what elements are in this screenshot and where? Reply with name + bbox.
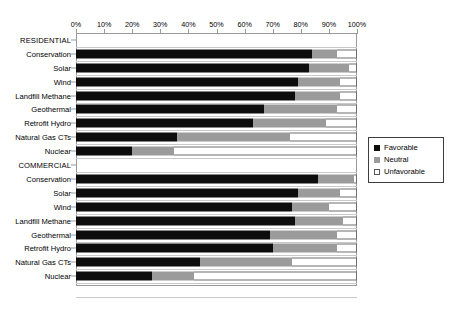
bar-segment-fav bbox=[76, 174, 318, 183]
legend-label-neutral: Neutral bbox=[384, 154, 408, 166]
bar-segment-neu bbox=[177, 133, 289, 142]
category-label: Retrofit Hydro bbox=[24, 244, 71, 253]
legend-label-unfavorable: Unfavorable bbox=[384, 166, 425, 178]
bar-segment-neu bbox=[318, 174, 355, 183]
chart-row: Nuclear bbox=[0, 269, 452, 283]
stacked-bar bbox=[76, 49, 357, 58]
bar-segment-unfav bbox=[340, 91, 357, 100]
bar-segment-unfav bbox=[290, 133, 357, 142]
chart-row: Retrofit Hydro bbox=[0, 242, 452, 256]
bar-segment-neu bbox=[264, 105, 337, 114]
bar-segment-neu bbox=[200, 258, 293, 267]
category-label: Geothermal bbox=[31, 105, 71, 114]
bar-segment-unfav bbox=[337, 230, 357, 239]
bar-segment-unfav bbox=[354, 174, 357, 183]
category-label: Retrofit Hydro bbox=[24, 119, 71, 128]
stacked-bar bbox=[76, 272, 357, 281]
category-label: Natural Gas CTs bbox=[15, 133, 71, 142]
bar-segment-unfav bbox=[174, 147, 357, 156]
bar-segment-unfav bbox=[337, 49, 357, 58]
stacked-bar bbox=[76, 91, 357, 100]
chart-legend: Favorable Neutral Unfavorable bbox=[368, 137, 444, 183]
chart-row: Landfill Methane bbox=[0, 89, 452, 103]
bar-segment-fav bbox=[76, 216, 295, 225]
bar-segment-unfav bbox=[343, 216, 357, 225]
category-label: Nuclear bbox=[45, 147, 71, 156]
bar-segment-unfav bbox=[194, 272, 357, 281]
bar-segment-neu bbox=[132, 147, 174, 156]
category-label: Solar bbox=[53, 188, 71, 197]
bar-segment-fav bbox=[76, 230, 270, 239]
stacked-bar bbox=[76, 133, 357, 142]
chart-row: Solar bbox=[0, 186, 452, 200]
category-label: Solar bbox=[53, 63, 71, 72]
category-label: Nuclear bbox=[45, 272, 71, 281]
bar-segment-neu bbox=[295, 91, 340, 100]
chart-row: Landfill Methane bbox=[0, 214, 452, 228]
chart-row bbox=[0, 283, 452, 297]
stacked-bar bbox=[76, 119, 357, 128]
chart-row: Retrofit Hydro bbox=[0, 116, 452, 130]
chart-row: Geothermal bbox=[0, 228, 452, 242]
bar-segment-unfav bbox=[292, 258, 357, 267]
category-label: Conservation bbox=[26, 174, 71, 183]
legend-item-unfavorable: Unfavorable bbox=[374, 166, 438, 178]
category-label: Landfill Methane bbox=[15, 216, 71, 225]
y-axis-tick-mark bbox=[71, 39, 76, 40]
category-label: Wind bbox=[54, 77, 71, 86]
bar-segment-unfav bbox=[337, 244, 357, 253]
stacked-bar bbox=[76, 147, 357, 156]
bar-segment-fav bbox=[76, 91, 295, 100]
stacked-bar bbox=[76, 244, 357, 253]
group-label: COMMERCIAL bbox=[19, 161, 71, 170]
chart-row: Conservation bbox=[0, 47, 452, 61]
stacked-bar-chart: 0%10%20%30%40%50%60%70%80%90%100% RESIDE… bbox=[0, 0, 452, 318]
chart-row: Natural Gas CTs bbox=[0, 255, 452, 269]
group-header-row: RESIDENTIAL bbox=[0, 33, 452, 47]
group-label: RESIDENTIAL bbox=[20, 35, 71, 44]
gridline bbox=[76, 297, 357, 298]
chart-row: Wind bbox=[0, 200, 452, 214]
bar-segment-neu bbox=[295, 216, 343, 225]
bar-segment-neu bbox=[309, 63, 348, 72]
category-label: Conservation bbox=[26, 49, 71, 58]
bar-segment-unfav bbox=[337, 105, 357, 114]
bar-segment-fav bbox=[76, 258, 200, 267]
legend-item-favorable: Favorable bbox=[374, 142, 438, 154]
category-label: Wind bbox=[54, 202, 71, 211]
bar-segment-neu bbox=[253, 119, 326, 128]
bar-segment-unfav bbox=[340, 77, 357, 86]
stacked-bar bbox=[76, 77, 357, 86]
bar-segment-neu bbox=[292, 202, 329, 211]
chart-row: Wind bbox=[0, 75, 452, 89]
chart-row: Geothermal bbox=[0, 103, 452, 117]
bar-segment-fav bbox=[76, 77, 298, 86]
bar-segment-neu bbox=[152, 272, 194, 281]
stacked-bar bbox=[76, 105, 357, 114]
stacked-bar bbox=[76, 174, 357, 183]
bar-segment-fav bbox=[76, 133, 177, 142]
bar-segment-fav bbox=[76, 49, 312, 58]
bar-segment-unfav bbox=[326, 119, 357, 128]
bar-segment-unfav bbox=[349, 63, 357, 72]
bar-segment-fav bbox=[76, 63, 309, 72]
bar-segment-fav bbox=[76, 202, 292, 211]
bar-segment-fav bbox=[76, 244, 273, 253]
chart-row: Solar bbox=[0, 61, 452, 75]
stacked-bar bbox=[76, 188, 357, 197]
stacked-bar bbox=[76, 230, 357, 239]
legend-swatch-favorable-icon bbox=[374, 145, 380, 151]
legend-swatch-unfavorable-icon bbox=[374, 169, 380, 175]
bar-segment-neu bbox=[312, 49, 337, 58]
bar-segment-neu bbox=[298, 188, 340, 197]
stacked-bar bbox=[76, 202, 357, 211]
stacked-bar bbox=[76, 258, 357, 267]
bar-segment-fav bbox=[76, 188, 298, 197]
legend-item-neutral: Neutral bbox=[374, 154, 438, 166]
bar-segment-fav bbox=[76, 272, 152, 281]
bar-segment-neu bbox=[273, 244, 338, 253]
bar-segment-fav bbox=[76, 105, 264, 114]
category-label: Geothermal bbox=[31, 230, 71, 239]
category-label: Landfill Methane bbox=[15, 91, 71, 100]
bar-segment-unfav bbox=[340, 188, 357, 197]
